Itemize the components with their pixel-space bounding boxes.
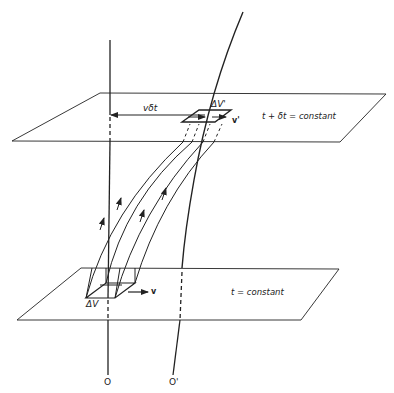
flow-line-3 <box>115 142 203 298</box>
diagram-graphics <box>0 0 394 393</box>
o-prime-worldline <box>182 12 243 268</box>
velocity-lower-label: v <box>151 288 156 296</box>
origin-prime-label: O' <box>169 378 179 387</box>
spacetime-flow-diagram: vδt ΔV' v' t + δt = constant ΔV v t = co… <box>0 0 394 393</box>
velocity-upper-label: v' <box>232 117 240 125</box>
volume-lower-label: ΔV <box>86 300 98 309</box>
flow-line-2 <box>106 142 192 283</box>
lower-plane-label: t = constant <box>231 288 284 297</box>
upper-plane-label: t + δt = constant <box>262 112 336 121</box>
volume-upper-label: ΔV' <box>211 100 226 109</box>
origin-label: O <box>104 378 111 387</box>
displacement-label: vδt <box>143 104 157 113</box>
flow-line-4 <box>135 142 214 283</box>
lower-plane <box>17 268 339 320</box>
